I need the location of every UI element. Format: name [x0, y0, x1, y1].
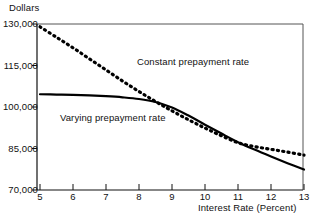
series-path-varying-prepayment-rate [40, 94, 304, 169]
chart-container: Dollars Interest Rate (Percent) 130,000 … [0, 0, 315, 217]
series-path-constant-prepayment-rate [40, 27, 304, 155]
y-axis-ticks [32, 24, 37, 190]
x-axis-ticks [40, 184, 304, 190]
chart-svg [0, 0, 315, 217]
